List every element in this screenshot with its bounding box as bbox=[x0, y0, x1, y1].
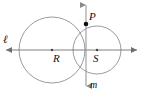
point-r-dot bbox=[51, 49, 53, 51]
point-s-dot bbox=[96, 49, 98, 51]
geometry-canvas bbox=[0, 0, 143, 97]
point-p-label: P bbox=[89, 11, 96, 22]
line-l-label: ℓ bbox=[3, 34, 8, 45]
line-m-label: m bbox=[90, 80, 97, 90]
center-s-label: S bbox=[93, 53, 99, 64]
geometry-figure: ℓ P R S m bbox=[0, 0, 143, 97]
center-r-label: R bbox=[53, 53, 60, 64]
point-p-dot bbox=[84, 22, 89, 27]
